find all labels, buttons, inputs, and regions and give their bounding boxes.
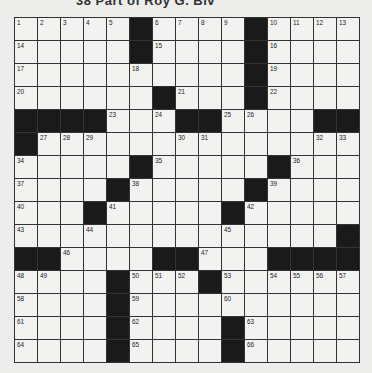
grid-cell[interactable] [84,87,106,109]
grid-cell[interactable] [61,87,83,109]
grid-cell[interactable] [222,179,244,201]
grid-cell[interactable] [153,202,175,224]
grid-cell[interactable] [314,340,336,362]
grid-cell[interactable] [130,87,152,109]
grid-cell[interactable] [199,294,221,316]
grid-cell[interactable] [84,294,106,316]
grid-cell[interactable] [268,317,290,339]
grid-cell[interactable] [61,179,83,201]
grid-cell[interactable] [176,156,198,178]
grid-cell[interactable] [61,156,83,178]
grid-cell[interactable] [176,41,198,63]
grid-cell[interactable] [176,225,198,247]
grid-cell[interactable]: 57 [337,271,359,293]
grid-cell[interactable] [291,133,313,155]
grid-cell[interactable]: 35 [153,156,175,178]
grid-cell[interactable]: 59 [130,294,152,316]
grid-cell[interactable] [314,225,336,247]
grid-cell[interactable] [107,133,129,155]
grid-cell[interactable] [176,294,198,316]
grid-cell[interactable]: 40 [15,202,37,224]
grid-cell[interactable] [245,156,267,178]
grid-cell[interactable] [153,294,175,316]
grid-cell[interactable]: 46 [61,248,83,270]
grid-cell[interactable] [38,202,60,224]
grid-cell[interactable] [61,202,83,224]
grid-cell[interactable] [268,110,290,132]
grid-cell[interactable]: 10 [268,18,290,40]
grid-cell[interactable]: 8 [199,18,221,40]
grid-cell[interactable] [245,271,267,293]
grid-cell[interactable] [61,317,83,339]
grid-cell[interactable]: 16 [268,41,290,63]
grid-cell[interactable] [176,317,198,339]
grid-cell[interactable] [153,225,175,247]
grid-cell[interactable]: 3 [61,18,83,40]
grid-cell[interactable]: 29 [84,133,106,155]
grid-cell[interactable]: 28 [61,133,83,155]
grid-cell[interactable] [337,317,359,339]
grid-cell[interactable]: 6 [153,18,175,40]
grid-cell[interactable] [84,179,106,201]
grid-cell[interactable] [291,41,313,63]
grid-cell[interactable] [199,64,221,86]
grid-cell[interactable] [222,133,244,155]
grid-cell[interactable]: 33 [337,133,359,155]
grid-cell[interactable] [84,340,106,362]
grid-cell[interactable] [337,202,359,224]
grid-cell[interactable] [153,133,175,155]
grid-cell[interactable] [84,64,106,86]
grid-cell[interactable]: 7 [176,18,198,40]
grid-cell[interactable] [337,64,359,86]
grid-cell[interactable] [176,202,198,224]
grid-cell[interactable]: 63 [245,317,267,339]
grid-cell[interactable] [38,41,60,63]
grid-cell[interactable] [176,340,198,362]
grid-cell[interactable] [38,294,60,316]
grid-cell[interactable] [314,294,336,316]
grid-cell[interactable] [222,41,244,63]
grid-cell[interactable]: 51 [153,271,175,293]
grid-cell[interactable] [222,156,244,178]
grid-cell[interactable] [38,317,60,339]
grid-cell[interactable] [107,225,129,247]
grid-cell[interactable]: 9 [222,18,244,40]
grid-cell[interactable]: 66 [245,340,267,362]
grid-cell[interactable] [61,271,83,293]
grid-cell[interactable] [314,64,336,86]
grid-cell[interactable]: 5 [107,18,129,40]
grid-cell[interactable] [222,248,244,270]
grid-cell[interactable]: 55 [291,271,313,293]
grid-cell[interactable]: 44 [84,225,106,247]
grid-cell[interactable] [38,64,60,86]
grid-cell[interactable] [291,64,313,86]
grid-cell[interactable]: 24 [153,110,175,132]
grid-cell[interactable] [130,202,152,224]
grid-cell[interactable] [153,317,175,339]
grid-cell[interactable] [84,41,106,63]
grid-cell[interactable] [291,225,313,247]
grid-cell[interactable] [38,179,60,201]
grid-cell[interactable]: 15 [153,41,175,63]
grid-cell[interactable] [268,225,290,247]
grid-cell[interactable] [222,87,244,109]
grid-cell[interactable] [38,225,60,247]
grid-cell[interactable]: 54 [268,271,290,293]
grid-cell[interactable]: 26 [245,110,267,132]
grid-cell[interactable] [84,156,106,178]
grid-cell[interactable] [153,340,175,362]
grid-cell[interactable] [107,87,129,109]
grid-cell[interactable] [84,248,106,270]
grid-cell[interactable]: 41 [107,202,129,224]
grid-cell[interactable]: 61 [15,317,37,339]
grid-cell[interactable]: 18 [130,64,152,86]
grid-cell[interactable] [314,317,336,339]
grid-cell[interactable]: 50 [130,271,152,293]
grid-cell[interactable]: 43 [15,225,37,247]
grid-cell[interactable] [153,64,175,86]
grid-cell[interactable]: 60 [222,294,244,316]
grid-cell[interactable] [291,294,313,316]
grid-cell[interactable] [291,317,313,339]
grid-cell[interactable]: 39 [268,179,290,201]
grid-cell[interactable]: 13 [337,18,359,40]
